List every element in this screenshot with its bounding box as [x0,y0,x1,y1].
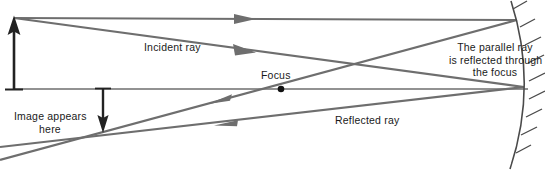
parallel-incident-ray-arrowhead [234,14,256,24]
focus-label: Focus [261,69,291,82]
parallel-ray-note-label: The parallel ray is reflected through th… [449,41,541,79]
focus-point [278,86,285,93]
parallel-incident-ray [14,18,516,20]
ray-diagram-canvas [0,0,545,170]
ray-diagram: Incident ray Focus Reflected ray Image a… [0,0,545,170]
incident-ray-label: Incident ray [144,41,201,54]
reflected-ray-label: Reflected ray [335,114,399,127]
parallel-reflected-ray-arrowhead [208,94,232,104]
image-location-label: Image appears here [14,110,86,135]
